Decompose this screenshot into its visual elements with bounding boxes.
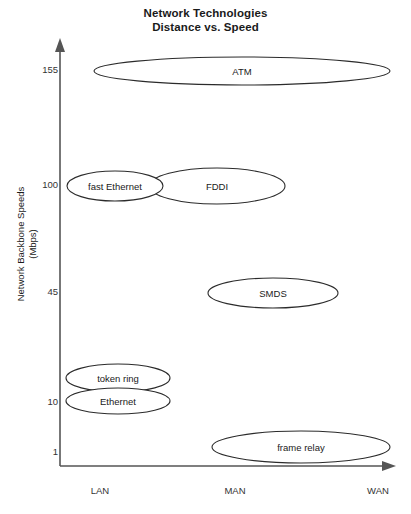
chart-plot-area: ATM FDDI fast Ethernet SMDS token ring E… [0, 0, 411, 514]
x-axis-arrowhead [382, 461, 396, 471]
bubble-smds-label: SMDS [259, 288, 286, 299]
chart-page: Network Technologies Distance vs. Speed … [0, 0, 411, 514]
bubble-frame-relay-label: frame relay [277, 442, 325, 453]
bubble-ethernet: Ethernet [66, 388, 170, 414]
bubble-ethernet-label: Ethernet [100, 396, 136, 407]
bubble-atm-label: ATM [232, 66, 251, 77]
y-axis-arrowhead [55, 38, 65, 52]
bubble-fddi: FDDI [149, 168, 285, 204]
bubble-smds: SMDS [208, 278, 338, 308]
bubble-fddi-label: FDDI [206, 181, 228, 192]
bubble-atm: ATM [94, 57, 390, 85]
bubble-fast-ethernet: fast Ethernet [67, 171, 163, 201]
bubble-frame-relay: frame relay [212, 431, 390, 463]
bubble-token-ring-label: token ring [97, 373, 139, 384]
bubble-fast-ethernet-label: fast Ethernet [88, 181, 142, 192]
